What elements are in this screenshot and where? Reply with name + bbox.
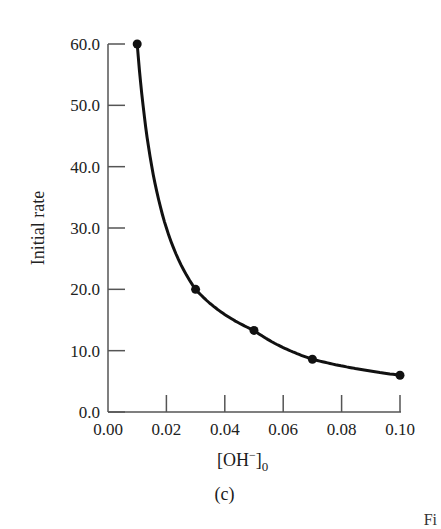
x-axis-label: [OH−]0 (217, 448, 268, 475)
data-point-marker (308, 355, 317, 364)
data-point-marker (133, 40, 142, 49)
data-point-marker (396, 371, 405, 380)
figure-caption: (c) (0, 484, 441, 505)
x-tick-label: 0.10 (385, 420, 415, 439)
x-axis-label-subscript: 0 (262, 459, 269, 474)
data-point-marker (191, 285, 200, 294)
y-tick-label: 50.0 (70, 96, 100, 115)
x-tick-label: 0.00 (93, 420, 123, 439)
axes (108, 44, 401, 412)
x-axis-label-superscript: − (249, 448, 256, 462)
x-tick-label: 0.08 (327, 420, 357, 439)
data-points (133, 40, 405, 380)
x-axis-label-main: [OH (217, 450, 249, 470)
data-curve (137, 44, 400, 375)
x-tick-label: 0.02 (152, 420, 182, 439)
y-axis-ticks: 0.010.020.030.040.050.060.0 (70, 35, 125, 422)
cropped-figure-label: Fi (424, 511, 437, 529)
y-tick-label: 60.0 (70, 35, 100, 54)
y-axis-label: Initial rate (28, 191, 48, 265)
y-tick-label: 10.0 (70, 342, 100, 361)
x-axis-ticks: 0.000.020.040.060.080.10 (93, 395, 415, 439)
y-tick-label: 20.0 (70, 280, 100, 299)
y-tick-label: 30.0 (70, 219, 100, 238)
x-tick-label: 0.06 (268, 420, 298, 439)
y-tick-label: 40.0 (70, 158, 100, 177)
x-tick-label: 0.04 (210, 420, 240, 439)
data-point-marker (250, 326, 259, 335)
